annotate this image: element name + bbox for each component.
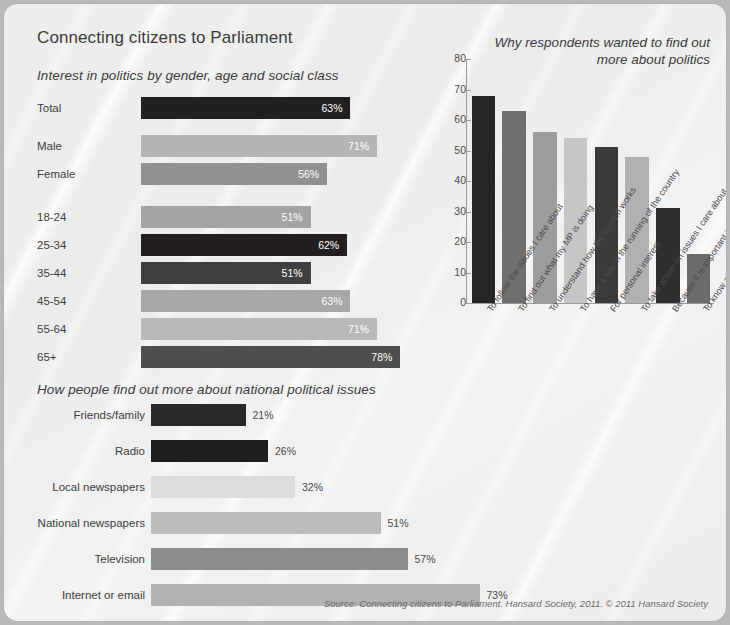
y-axis-tick-label: 80 bbox=[432, 52, 473, 64]
bar-fill: 51% bbox=[151, 512, 381, 534]
bar-track: 71% bbox=[141, 135, 407, 157]
bar-value-label: 63% bbox=[321, 97, 342, 119]
bar-track: 63% bbox=[141, 290, 407, 312]
bar-category-label: Male bbox=[37, 135, 135, 157]
bar-row: Total63% bbox=[37, 97, 407, 119]
y-axis-tick-label: 40 bbox=[432, 174, 473, 186]
bar-row: Male71% bbox=[37, 135, 407, 157]
bar-track: 56% bbox=[141, 163, 407, 185]
bar-fill: 63% bbox=[141, 97, 350, 119]
bar-fill: 51% bbox=[141, 262, 311, 284]
bar-track: 57% bbox=[151, 548, 511, 570]
y-axis-tick-label: 0 bbox=[432, 296, 473, 308]
bar-fill: 57% bbox=[151, 548, 408, 570]
bar-track: 78% bbox=[141, 346, 407, 368]
bar-value-label: 51% bbox=[282, 262, 303, 284]
bar-category-label: 25-34 bbox=[37, 234, 135, 256]
bar-category-label: Television bbox=[37, 548, 145, 570]
bar-category-label: National newspapers bbox=[37, 512, 145, 534]
bar-row: 65+78% bbox=[37, 346, 407, 368]
y-axis-tick-label: 20 bbox=[432, 235, 473, 247]
bar-row: 55-6471% bbox=[37, 318, 407, 340]
bar-fill: 71% bbox=[141, 135, 377, 157]
bar-value-label: 32% bbox=[302, 476, 323, 498]
y-axis-tick-label: 30 bbox=[432, 205, 473, 217]
bar-fill: 63% bbox=[141, 290, 350, 312]
bar-row: 25-3462% bbox=[37, 234, 407, 256]
bar-track: 51% bbox=[141, 206, 407, 228]
y-axis-tick-label: 60 bbox=[432, 113, 473, 125]
bar-category-label: 55-64 bbox=[37, 318, 135, 340]
bar-category-label: Local newspapers bbox=[37, 476, 145, 498]
bar-track: 32% bbox=[151, 476, 511, 498]
bar-value-label: 71% bbox=[348, 318, 369, 340]
bar-track: 62% bbox=[141, 234, 407, 256]
bar-value-label: 26% bbox=[275, 440, 296, 462]
bar-category-label: 65+ bbox=[37, 346, 135, 368]
bar-track: 51% bbox=[141, 262, 407, 284]
page-title: Connecting citizens to Parliament bbox=[37, 28, 293, 48]
bar-category-label: Total bbox=[37, 97, 135, 119]
bar-value-label: 51% bbox=[282, 206, 303, 228]
y-axis-tick-mark bbox=[466, 303, 471, 304]
chart-title-how-people-find-out: How people find out more about national … bbox=[37, 382, 376, 397]
bar-fill: 78% bbox=[141, 346, 400, 368]
bar-category-label: Friends/family bbox=[37, 404, 145, 426]
bar-track: 21% bbox=[151, 404, 511, 426]
bar-fill: 21% bbox=[151, 404, 246, 426]
chart-interest-by-demographics: Total63%Male71%Female56%18-2451%25-3462%… bbox=[37, 92, 407, 344]
bar-row: Television57% bbox=[37, 548, 597, 570]
bar-value-label: 63% bbox=[321, 290, 342, 312]
y-axis-tick-label: 10 bbox=[432, 266, 473, 278]
bar-category-label: 18-24 bbox=[37, 206, 135, 228]
bar-fill: 71% bbox=[141, 318, 377, 340]
bar-category-label: Radio bbox=[37, 440, 145, 462]
bar-fill: 62% bbox=[141, 234, 347, 256]
bar-track: 51% bbox=[151, 512, 511, 534]
bar-value-label: 56% bbox=[298, 163, 319, 185]
bar-track: 71% bbox=[141, 318, 407, 340]
bar-category-label: Internet or email bbox=[37, 584, 145, 606]
y-axis-tick-label: 70 bbox=[432, 83, 473, 95]
bar-value-label: 78% bbox=[371, 346, 392, 368]
bar-row: National newspapers51% bbox=[37, 512, 597, 534]
bar-value-label: 21% bbox=[253, 404, 274, 426]
chart-why-find-out-more: Why respondents wanted to find out more … bbox=[432, 56, 718, 314]
vertical-bar bbox=[472, 96, 495, 303]
chart-title-interest-by-demographics: Interest in politics by gender, age and … bbox=[37, 68, 339, 83]
bar-value-label: 71% bbox=[348, 135, 369, 157]
bar-category-label: Female bbox=[37, 163, 135, 185]
y-axis-tick-label: 50 bbox=[432, 144, 473, 156]
source-note: Source: Connecting citizens to Parliamen… bbox=[324, 598, 708, 609]
bar-track: 26% bbox=[151, 440, 511, 462]
bar-row: 18-2451% bbox=[37, 206, 407, 228]
bar-row: 35-4451% bbox=[37, 262, 407, 284]
bar-fill: 56% bbox=[141, 163, 327, 185]
bar-row: Female56% bbox=[37, 163, 407, 185]
bar-fill: 51% bbox=[141, 206, 311, 228]
chart-title-line-1: Why respondents wanted to find out bbox=[495, 35, 710, 50]
bar-value-label: 57% bbox=[415, 548, 436, 570]
infographic-poster: Connecting citizens to Parliament Intere… bbox=[4, 4, 726, 621]
bar-track: 63% bbox=[141, 97, 407, 119]
bar-category-label: 35-44 bbox=[37, 262, 135, 284]
bar-fill: 26% bbox=[151, 440, 268, 462]
x-axis-labels: To follow the issues I care aboutTo find… bbox=[468, 306, 726, 446]
bar-category-label: 45-54 bbox=[37, 290, 135, 312]
bar-fill: 32% bbox=[151, 476, 295, 498]
bar-value-label: 51% bbox=[388, 512, 409, 534]
bar-row: Local newspapers32% bbox=[37, 476, 597, 498]
bar-value-label: 62% bbox=[318, 234, 339, 256]
bar-row: 45-5463% bbox=[37, 290, 407, 312]
